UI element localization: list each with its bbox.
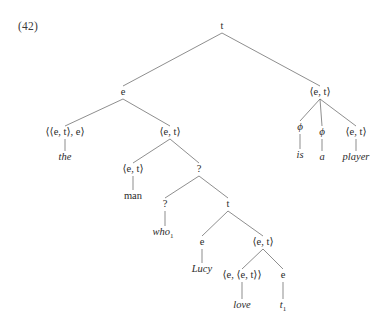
tree-edge [228, 211, 263, 236]
tree-node-verb: ⟨e, ⟨e, t⟩⟩ [222, 269, 261, 280]
leaf-trace-subscript: 1 [283, 305, 287, 313]
leaf-who: who1 [152, 226, 174, 240]
leaf-stem-layer [65, 134, 356, 299]
tree-node-nbar: ⟨e, t⟩ [159, 126, 180, 137]
tree-edge [202, 211, 228, 236]
tree-edge [320, 99, 322, 126]
syntax-tree-diagram: te⟨e, t⟩⟨⟨e, t⟩, e⟩⟨e, t⟩ϕϕ⟨e, t⟩⟨e, t⟩?… [0, 0, 385, 329]
leaf-a: a [319, 151, 324, 162]
tree-leaf-layer: themanwho1Lucylovet1isaplayer [59, 149, 371, 313]
leaf-love: love [233, 299, 251, 310]
tree-edge [65, 99, 123, 126]
tree-node-layer: te⟨e, t⟩⟨⟨e, t⟩, e⟩⟨e, t⟩ϕϕ⟨e, t⟩⟨e, t⟩?… [45, 20, 366, 280]
tree-edge [165, 176, 199, 198]
tree-edge [133, 139, 170, 163]
tree-edge [199, 176, 228, 198]
leaf-man: man [124, 190, 143, 201]
tree-node-obj: e [281, 269, 286, 280]
leaf-player: player [342, 151, 371, 162]
leaf-is: is [296, 149, 303, 160]
tree-edge [123, 99, 170, 126]
tree-node-irc: t [227, 198, 230, 209]
leaf-trace: t1 [280, 299, 287, 313]
tree-edge [300, 99, 320, 121]
tree-edge [263, 249, 283, 269]
leaf-lucy: Lucy [191, 263, 213, 274]
tree-node-cop: ϕ [297, 120, 303, 132]
tree-node-det: ⟨⟨e, t⟩, e⟩ [45, 126, 84, 137]
tree-node-dp: e [121, 86, 126, 97]
leaf-the: the [59, 151, 72, 162]
tree-node-subj: e [200, 236, 205, 247]
tree-node-relop: ? [163, 198, 168, 209]
tree-node-relc: ? [197, 163, 202, 174]
tree-edge [123, 33, 222, 86]
tree-node-npred: ⟨e, t⟩ [345, 126, 366, 137]
tree-node-root: t [221, 20, 224, 31]
tree-node-vbar: ⟨e, t⟩ [252, 236, 273, 247]
tree-edge [320, 99, 356, 126]
tree-node-nhead: ⟨e, t⟩ [122, 163, 143, 174]
tree-node-vp: ⟨e, t⟩ [309, 86, 330, 97]
tree-edge [242, 249, 263, 269]
tree-edge-layer [65, 33, 356, 269]
leaf-who-subscript: 1 [170, 232, 174, 240]
tree-edge [222, 33, 320, 86]
tree-node-artphi: ϕ [319, 125, 325, 137]
tree-edge [170, 139, 199, 163]
